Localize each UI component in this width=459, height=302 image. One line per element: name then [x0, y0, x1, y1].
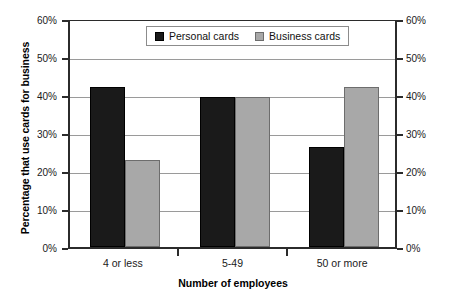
y-axis-label-right: 50% — [406, 54, 452, 64]
y-axis-tick-left — [62, 210, 68, 212]
y-axis-label-left: 30% — [17, 130, 57, 140]
y-axis-tick-right — [397, 96, 403, 98]
y-axis-tick-left — [62, 58, 68, 60]
y-axis-label-left: 50% — [17, 54, 57, 64]
y-axis-tick-left — [62, 20, 68, 22]
bar-chart: Percentage that use cards for business 6… — [0, 0, 459, 302]
legend-swatch-personal-icon — [155, 32, 164, 41]
legend-swatch-business-icon — [255, 32, 264, 41]
y-axis-label-left: 60% — [17, 16, 57, 26]
y-axis-label-right: 30% — [406, 130, 452, 140]
y-axis-tick-right — [397, 210, 403, 212]
legend-item-business-cards: Business cards — [255, 30, 340, 42]
y-axis-tick-left — [62, 248, 68, 250]
bar-business-cards — [235, 97, 270, 247]
x-axis-label: 50 or more — [282, 257, 402, 269]
bar-business-cards — [125, 160, 160, 247]
y-axis-label-left: 0% — [17, 244, 57, 254]
y-axis-label-right: 20% — [406, 168, 452, 178]
x-axis-label: 5-49 — [173, 257, 293, 269]
legend-label-personal: Personal cards — [169, 30, 239, 42]
y-axis-tick-right — [397, 20, 403, 22]
y-axis-tick-left — [62, 96, 68, 98]
y-axis-label-right: 60% — [406, 16, 452, 26]
y-axis-tick-right — [397, 58, 403, 60]
bar-personal-cards — [200, 97, 235, 247]
x-axis-title: Number of employees — [68, 277, 398, 289]
y-axis-label-left: 10% — [17, 206, 57, 216]
bar-business-cards — [344, 87, 379, 247]
legend-item-personal-cards: Personal cards — [155, 30, 239, 42]
plot-area — [68, 21, 397, 249]
bar-personal-cards — [309, 147, 344, 247]
legend-label-business: Business cards — [269, 30, 340, 42]
y-axis-tick-left — [62, 172, 68, 174]
x-axis-label: 4 or less — [63, 257, 183, 269]
y-axis-tick-right — [397, 172, 403, 174]
gridline — [70, 59, 395, 60]
y-axis-label-right: 0% — [406, 244, 452, 254]
x-axis-tick — [286, 249, 288, 256]
y-axis-tick-left — [62, 134, 68, 136]
y-axis-label-right: 40% — [406, 92, 452, 102]
y-axis-label-right: 10% — [406, 206, 452, 216]
y-axis-label-left: 20% — [17, 168, 57, 178]
y-axis-tick-right — [397, 134, 403, 136]
x-axis-tick — [177, 249, 179, 256]
bar-personal-cards — [90, 87, 125, 247]
chart-legend: Personal cards Business cards — [146, 26, 349, 46]
y-axis-tick-right — [397, 248, 403, 250]
y-axis-label-left: 40% — [17, 92, 57, 102]
